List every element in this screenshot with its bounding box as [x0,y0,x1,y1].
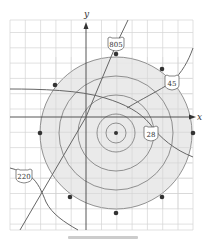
x-axis-label: x [197,112,202,122]
svg-text:805: 805 [109,41,122,49]
svg-text:28: 28 [147,131,156,139]
shield-45: 45 [165,75,179,90]
x-axis-arrow-icon [189,115,196,120]
y-axis-arrow-icon [84,22,89,29]
dot [114,52,119,57]
dot [114,211,119,216]
dot [191,131,196,136]
svg-text:220: 220 [17,173,30,181]
shield-28: 28 [144,126,158,141]
y-axis-label: y [83,9,90,19]
center-dot [114,131,118,135]
dot [38,131,43,136]
dot [53,83,58,88]
dot [68,195,73,200]
dot [160,67,165,72]
shield-220: 220 [16,169,32,183]
svg-text:45: 45 [168,80,177,88]
caption-blur [68,236,138,239]
coordinate-map-figure: x y 805 45 28 220 [0,0,205,243]
shield-805: 805 [108,37,124,51]
dot [160,195,165,200]
